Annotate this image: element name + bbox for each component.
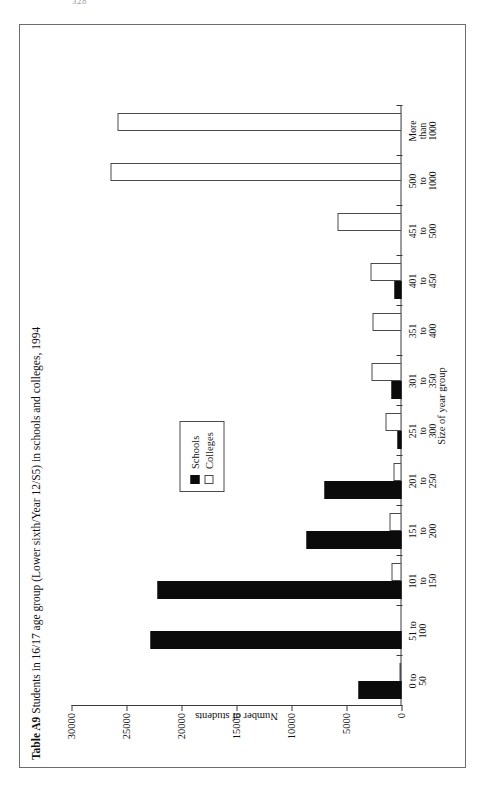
category-tick	[396, 305, 402, 306]
bar-schools	[157, 581, 401, 599]
bar-schools	[306, 531, 401, 549]
category-tick-label: 101 to 150	[407, 574, 436, 588]
category-tick-label: 151 to 200	[407, 524, 436, 538]
value-tick-label: 15000	[231, 713, 242, 739]
value-tick-label: 20000	[176, 713, 187, 739]
legend-swatch	[190, 475, 199, 484]
figure-title-rest: Students in 16/17 age group (Lower sixth…	[29, 327, 41, 717]
bar-schools	[397, 431, 401, 449]
category-tick-label: 0 to 50	[407, 674, 427, 689]
figure-title: Table A9 Students in 16/17 age group (Lo…	[29, 327, 41, 760]
category-tick	[396, 655, 402, 656]
bar-colleges	[399, 663, 401, 681]
value-tick	[71, 705, 72, 711]
category-tick-label: 500 to 1000	[407, 171, 436, 190]
bar-schools	[324, 481, 401, 499]
bar-colleges	[389, 513, 401, 531]
category-tick	[396, 605, 402, 606]
plot-area: Number of students Size of year group 05…	[71, 106, 401, 706]
bar-colleges	[371, 363, 401, 381]
category-tick	[396, 405, 402, 406]
category-tick	[396, 205, 402, 206]
legend: SchoolsColleges	[179, 421, 224, 492]
legend-label: Colleges	[203, 432, 214, 469]
bar-schools	[358, 681, 401, 699]
category-tick-label: 351 to 400	[407, 324, 436, 338]
value-tick	[126, 705, 127, 711]
category-tick-label: 401 to 450	[407, 274, 436, 288]
legend-item: Schools	[189, 432, 200, 484]
bar-colleges	[372, 313, 401, 331]
value-tick-label: 25000	[121, 713, 132, 739]
bar-colleges	[117, 113, 401, 131]
bar-colleges	[110, 163, 402, 181]
category-tick	[396, 255, 402, 256]
category-tick	[396, 705, 402, 706]
legend-item: Colleges	[203, 432, 214, 484]
category-tick	[396, 505, 402, 506]
figure-title-prefix: Table A9	[29, 717, 41, 760]
bar-colleges	[385, 413, 402, 431]
value-tick-label: 10000	[286, 713, 297, 739]
category-tick	[396, 455, 402, 456]
category-tick	[396, 355, 402, 356]
value-tick-label: 30000	[66, 713, 77, 739]
category-tick-label: 251 to 300	[407, 424, 436, 438]
bar-colleges	[391, 563, 401, 581]
figure-frame: Table A9 Students in 16/17 age group (Lo…	[19, 24, 466, 768]
page-number: 328	[72, 0, 87, 6]
bar-colleges	[337, 213, 401, 231]
bar-colleges	[393, 463, 401, 481]
category-tick-label: 451 to 500	[407, 224, 436, 238]
category-tick-label: 201 to 250	[407, 474, 436, 488]
value-tick	[291, 705, 292, 711]
bar-schools	[394, 281, 401, 299]
legend-label: Schools	[189, 436, 200, 469]
category-tick	[396, 555, 402, 556]
rotated-chart-stage: Table A9 Students in 16/17 age group (Lo…	[19, 24, 466, 768]
value-tick-label: 0	[396, 713, 407, 718]
value-tick	[236, 705, 237, 711]
category-tick-label: 51 to 100	[407, 621, 427, 640]
legend-swatch	[204, 475, 213, 484]
category-tick	[396, 155, 402, 156]
category-axis-line	[400, 106, 401, 706]
value-tick-label: 5000	[341, 713, 352, 734]
bar-schools	[391, 381, 401, 399]
value-tick	[181, 705, 182, 711]
bar-colleges	[370, 263, 401, 281]
value-tick	[346, 705, 347, 711]
category-tick-label: More than 1000	[407, 121, 436, 142]
bar-schools	[150, 631, 401, 649]
category-tick-label: 301 to 350	[407, 374, 436, 388]
category-tick	[396, 105, 402, 106]
